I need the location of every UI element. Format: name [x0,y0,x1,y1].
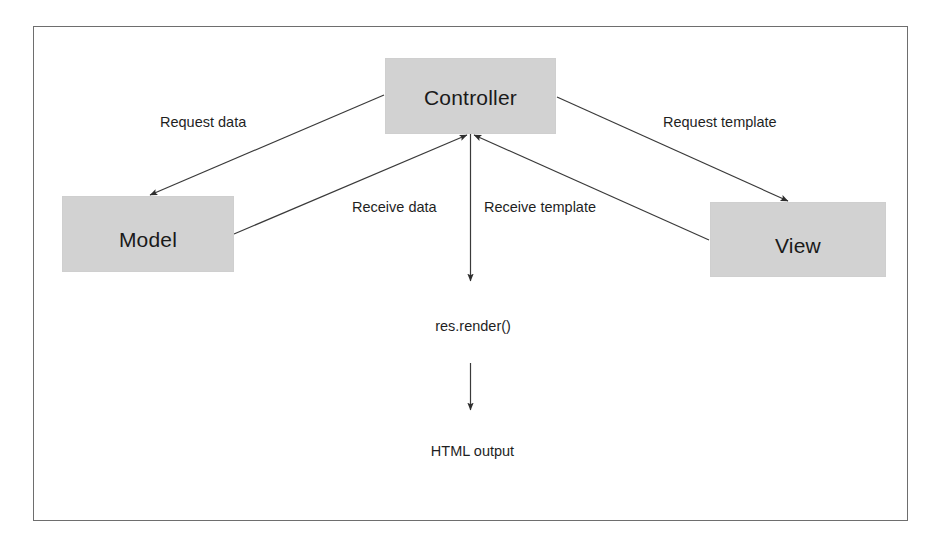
edge-label-receive-template: Receive template [484,199,596,215]
node-model-label: Model [119,228,177,252]
node-res-render-label: res.render() [418,318,528,334]
node-controller-label: Controller [424,86,517,110]
node-controller[interactable]: Controller [385,58,556,134]
node-model[interactable]: Model [62,196,234,272]
node-view-label: View [775,234,821,258]
diagram-canvas: Controller Model View Request data Reque… [0,0,940,544]
node-view[interactable]: View [710,202,886,277]
edge-label-request-template: Request template [663,114,777,130]
edge-label-request-data: Request data [160,114,246,130]
edge-label-receive-data: Receive data [352,199,437,215]
node-html-output-label: HTML output [415,443,530,459]
